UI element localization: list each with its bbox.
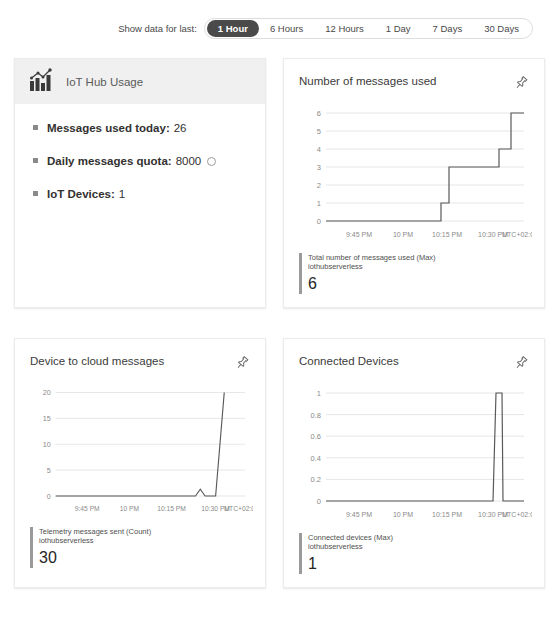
legend-resource-name: iothubserverless [308, 542, 393, 551]
svg-text:9:45 PM: 9:45 PM [346, 231, 372, 238]
chart-title: Number of messages used [299, 75, 436, 87]
svg-text:10 PM: 10 PM [120, 505, 140, 512]
usage-label: IoT Devices: [47, 188, 115, 200]
svg-text:2: 2 [317, 181, 321, 190]
svg-text:0.8: 0.8 [311, 411, 321, 420]
svg-text:9:45 PM: 9:45 PM [346, 511, 372, 518]
svg-text:UTC+02:00: UTC+02:00 [502, 511, 532, 518]
usage-value: 26 [174, 122, 187, 134]
svg-text:5: 5 [317, 127, 321, 136]
legend-value: 1 [308, 554, 393, 574]
chart-legend: Total number of messages used (Max) ioth… [284, 249, 544, 294]
svg-text:0: 0 [47, 493, 51, 501]
x-axis-labels: 9:45 PM 10 PM 10:15 PM 10:30 PM UTC+02:0… [346, 231, 532, 238]
legend-metric-name: Connected devices (Max) [308, 533, 393, 542]
chart-title: Device to cloud messages [30, 355, 164, 367]
svg-text:10: 10 [43, 441, 51, 449]
pin-icon[interactable] [513, 355, 529, 371]
time-range-option-6-hours[interactable]: 6 Hours [259, 20, 314, 37]
svg-text:5: 5 [47, 467, 51, 475]
bullet-icon [33, 191, 38, 196]
svg-text:3: 3 [317, 163, 321, 172]
legend-metric-name: Telemetry messages sent (Count) [39, 527, 151, 536]
usage-label: Messages used today: [47, 122, 170, 134]
usage-item-messages-used-today: Messages used today: 26 [33, 122, 265, 134]
chart-title: Connected Devices [299, 355, 399, 367]
time-range-option-1-day[interactable]: 1 Day [375, 20, 422, 37]
legend-value: 30 [39, 548, 151, 568]
svg-text:20: 20 [43, 389, 51, 397]
y-axis-labels: 6 5 4 3 2 1 0 [317, 109, 321, 226]
usage-label: Daily messages quota: [47, 155, 172, 167]
svg-text:0.4: 0.4 [311, 454, 321, 463]
x-axis-labels: 9:45 PM 10 PM 10:15 PM 10:30 PM UTC+02:0… [75, 505, 253, 512]
svg-text:10:15 PM: 10:15 PM [432, 231, 462, 238]
legend-text: Total number of messages used (Max) ioth… [308, 253, 436, 294]
messages-used-plot: 6 5 4 3 2 1 0 9:45 PM 10 PM 10:15 PM 10:… [292, 101, 532, 249]
svg-text:10:15 PM: 10:15 PM [157, 505, 186, 512]
iot-hub-usage-title: IoT Hub Usage [66, 76, 143, 88]
chart-legend: Telemetry messages sent (Count) iothubse… [15, 523, 265, 568]
legend-color-marker [299, 533, 302, 574]
svg-text:0.6: 0.6 [311, 432, 321, 441]
chart-header: Connected Devices [284, 339, 544, 371]
chart-plot-area: 20 15 10 5 0 9:45 PM 10 PM 10:15 PM 10:3… [15, 381, 265, 523]
bullet-icon [33, 125, 38, 130]
time-range-bar: Show data for last: 1 Hour 6 Hours 12 Ho… [0, 18, 559, 39]
chart-header: Device to cloud messages [15, 339, 265, 371]
legend-text: Telemetry messages sent (Count) iothubse… [39, 527, 151, 568]
svg-text:1: 1 [317, 389, 321, 398]
legend-color-marker [299, 253, 302, 294]
chart-header: Number of messages used [284, 59, 544, 91]
svg-text:0: 0 [317, 217, 321, 226]
chart-plot-area: 6 5 4 3 2 1 0 9:45 PM 10 PM 10:15 PM 10:… [284, 101, 544, 249]
usage-item-iot-devices: IoT Devices: 1 [33, 188, 265, 200]
legend-metric-name: Total number of messages used (Max) [308, 253, 436, 262]
bullet-icon [33, 158, 38, 163]
time-range-option-12-hours[interactable]: 12 Hours [314, 20, 375, 37]
iot-hub-usage-card: IoT Hub Usage Messages used today: 26 Da… [14, 58, 266, 308]
usage-value: 8000 [176, 155, 202, 167]
svg-text:0: 0 [317, 497, 321, 506]
time-range-label: Show data for last: [118, 23, 197, 34]
svg-text:9:45 PM: 9:45 PM [75, 505, 100, 512]
connected-devices-chart-card: Connected Devices [283, 338, 545, 588]
svg-text:4: 4 [317, 145, 321, 154]
dashboard-page: Show data for last: 1 Hour 6 Hours 12 Ho… [0, 0, 559, 619]
connected-devices-plot: 1 0.8 0.6 0.4 0.2 0 9:45 PM 10 PM 10:15 … [292, 381, 532, 529]
legend-resource-name: iothubserverless [39, 536, 151, 545]
time-range-option-7-days[interactable]: 7 Days [422, 20, 474, 37]
time-range-option-30-days[interactable]: 30 Days [473, 20, 530, 37]
y-axis-labels: 1 0.8 0.6 0.4 0.2 0 [311, 389, 321, 506]
svg-text:10 PM: 10 PM [393, 511, 413, 518]
pin-icon[interactable] [234, 355, 250, 371]
x-axis-labels: 9:45 PM 10 PM 10:15 PM 10:30 PM UTC+02:0… [346, 511, 532, 518]
svg-text:UTC+02:00: UTC+02:00 [224, 505, 253, 512]
legend-color-marker [30, 527, 33, 568]
usage-value: 1 [119, 188, 125, 200]
y-axis-labels: 20 15 10 5 0 [43, 389, 51, 500]
svg-text:10 PM: 10 PM [393, 231, 413, 238]
device-to-cloud-chart-card: Device to cloud messages [14, 338, 266, 588]
svg-text:UTC+02:00: UTC+02:00 [502, 231, 532, 238]
chart-plot-area: 1 0.8 0.6 0.4 0.2 0 9:45 PM 10 PM 10:15 … [284, 381, 544, 529]
svg-text:15: 15 [43, 415, 51, 423]
chart-legend: Connected devices (Max) iothubserverless… [284, 529, 544, 574]
svg-text:10:15 PM: 10:15 PM [432, 511, 462, 518]
time-range-option-1-hour[interactable]: 1 Hour [207, 20, 259, 37]
connected-devices-series [326, 393, 524, 501]
device-to-cloud-plot: 20 15 10 5 0 9:45 PM 10 PM 10:15 PM 10:3… [23, 381, 253, 523]
bar-chart-trend-icon [29, 68, 55, 96]
usage-item-daily-messages-quota: Daily messages quota: 8000 [33, 155, 265, 167]
svg-text:0.2: 0.2 [311, 475, 321, 484]
svg-text:6: 6 [317, 109, 321, 118]
legend-text: Connected devices (Max) iothubserverless… [308, 533, 393, 574]
messages-used-chart-card: Number of messages used [283, 58, 545, 308]
iot-hub-usage-header: IoT Hub Usage [15, 59, 265, 104]
legend-value: 6 [308, 274, 436, 294]
iot-hub-usage-body: Messages used today: 26 Daily messages q… [15, 104, 265, 200]
pin-icon[interactable] [513, 75, 529, 91]
legend-resource-name: iothubserverless [308, 262, 436, 271]
time-range-options[interactable]: 1 Hour 6 Hours 12 Hours 1 Day 7 Days 30 … [204, 18, 533, 39]
info-icon[interactable] [207, 157, 216, 166]
